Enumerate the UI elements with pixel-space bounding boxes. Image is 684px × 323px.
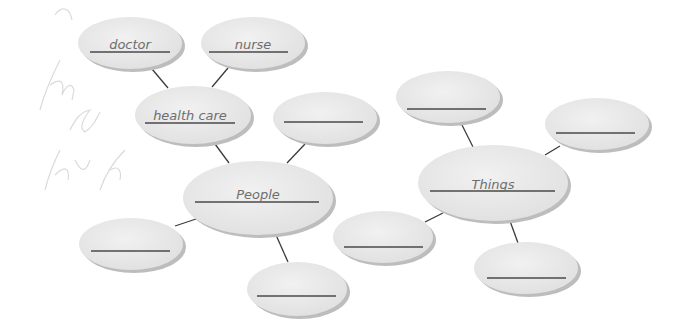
center-label: Things: [471, 177, 514, 192]
edge-left-people: [175, 218, 199, 226]
node-things-bottom[interactable]: [474, 242, 581, 297]
node-people-bottom[interactable]: [247, 262, 350, 319]
node-people-top-right[interactable]: [273, 92, 380, 147]
web-diagram: doctor nurse health care People: [0, 0, 684, 323]
node-nurse: nurse: [201, 17, 308, 72]
edge-thingstop-things: [461, 123, 473, 147]
node-people-left[interactable]: [79, 218, 186, 273]
edge-topright-people: [287, 144, 305, 163]
node-things-left[interactable]: [333, 211, 436, 266]
center-label: People: [236, 187, 280, 202]
node-people-center: People: [183, 161, 336, 238]
node-label: health care: [153, 108, 227, 123]
node-things-center: Things: [418, 145, 571, 224]
node-things-top[interactable]: [396, 71, 503, 126]
node-doctor: doctor: [78, 17, 185, 72]
node-things-right[interactable]: [545, 98, 652, 153]
edge-doctor-healthcare: [152, 69, 168, 88]
edge-bottom-people: [276, 235, 288, 262]
edge-healthcare-people: [215, 144, 229, 163]
edge-thingsright-things: [545, 146, 560, 155]
edge-thingsbottom-things: [510, 221, 518, 243]
node-label: doctor: [109, 37, 152, 52]
node-label: nurse: [235, 37, 272, 52]
edge-nurse-healthcare: [212, 68, 228, 87]
node-health-care: health care: [135, 86, 254, 147]
edge-thingsleft-things: [425, 213, 443, 222]
